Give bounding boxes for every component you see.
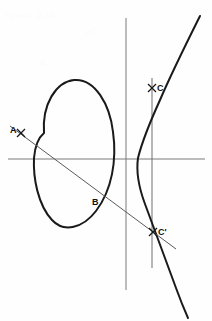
ghost-text-line-3: a: [40, 56, 45, 67]
ghost-text-line-1: space 2 to: [6, 8, 55, 20]
point-marker-a: [17, 129, 25, 137]
elliptic-curve-diagram: A B C C': [0, 0, 212, 321]
curve-unbounded-branch: [137, 16, 200, 318]
label-point-c: C: [157, 83, 164, 93]
label-point-b: B: [92, 197, 99, 207]
label-point-a: A: [10, 125, 17, 135]
figure-root: space 2 to of a A B C C': [0, 0, 212, 321]
label-point-c-prime: C': [158, 227, 167, 237]
ghost-text-line-2: of: [86, 26, 95, 37]
curve-oval-component: [34, 80, 114, 227]
